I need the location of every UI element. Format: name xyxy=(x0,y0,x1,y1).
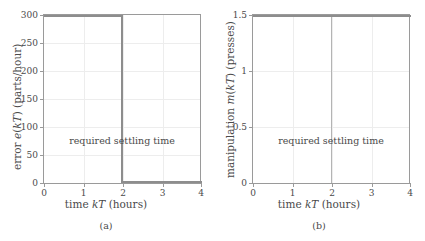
figure: 0 1 2 3 4 0 50 100 150 200 250 300 requi… xyxy=(0,0,425,241)
y-tick-label: 300 xyxy=(21,10,38,20)
x-axis-label-a: time kT (hours) xyxy=(0,198,212,210)
plot-area-a: 0 1 2 3 4 0 50 100 150 200 250 300 requi… xyxy=(43,14,201,184)
x-tick xyxy=(410,183,411,187)
y-axis-label-a: error e(kT) (parts/hour) xyxy=(11,44,23,170)
plot-area-b: 0 1 2 3 4 0 0.5 1 1.5 required settling … xyxy=(252,14,410,184)
subplot-caption-b: (b) xyxy=(213,220,425,231)
x-tick-label: 2 xyxy=(329,188,335,198)
subplot-caption-a: (a) xyxy=(0,220,212,231)
x-tick xyxy=(84,183,85,187)
x-tick-label: 1 xyxy=(290,188,296,198)
x-axis-label-b: time kT (hours) xyxy=(213,198,425,210)
y-tick-label: 50 xyxy=(27,150,38,160)
x-tick-label: 4 xyxy=(407,188,413,198)
y-tick-label: 1 xyxy=(241,66,247,76)
y-tick xyxy=(249,71,253,72)
y-tick-label: 1.5 xyxy=(233,10,247,20)
x-tick-label: 2 xyxy=(120,188,126,198)
y-axis-label-italic-kt: kT xyxy=(11,115,23,128)
settling-time-marker-b xyxy=(331,15,332,183)
y-axis-label-mid: ( xyxy=(224,90,236,94)
plot-inner-b: 0 1 2 3 4 0 0.5 1 1.5 required settling … xyxy=(253,15,409,183)
annotation-required-settling-time-a: required settling time xyxy=(69,135,175,146)
x-axis-label-pre: time xyxy=(278,198,305,210)
annotation-required-settling-time-b: required settling time xyxy=(278,135,384,146)
data-segment-high-a xyxy=(44,15,122,17)
y-axis-label-italic-m: m xyxy=(224,95,236,105)
x-tick-label: 3 xyxy=(369,188,375,198)
x-axis-label-post: (hours) xyxy=(105,198,147,210)
x-tick-label: 0 xyxy=(41,188,47,198)
x-tick xyxy=(332,183,333,187)
x-axis-label-italic: kT xyxy=(92,198,105,210)
y-tick xyxy=(249,15,253,16)
y-axis-label-italic-e: e xyxy=(11,133,23,139)
gridline-vertical xyxy=(372,15,373,183)
data-segment-low-a xyxy=(121,181,202,183)
x-tick xyxy=(123,183,124,187)
y-axis-label-pre: manipulation xyxy=(224,105,236,178)
y-tick xyxy=(40,127,44,128)
x-axis-label-italic: kT xyxy=(305,198,318,210)
subplot-a: 0 1 2 3 4 0 50 100 150 200 250 300 requi… xyxy=(0,0,212,241)
gridline-vertical xyxy=(293,15,294,183)
y-tick xyxy=(40,155,44,156)
x-tick xyxy=(163,183,164,187)
subplot-b: 0 1 2 3 4 0 0.5 1 1.5 required settling … xyxy=(213,0,425,241)
y-tick-label: 250 xyxy=(21,38,38,48)
y-tick-label: 150 xyxy=(21,94,38,104)
x-tick xyxy=(44,183,45,187)
y-tick xyxy=(40,99,44,100)
data-segment-step-a xyxy=(121,15,123,183)
y-axis-label-post: ) (presses) xyxy=(224,21,236,77)
x-tick xyxy=(293,183,294,187)
x-axis-label-pre: time xyxy=(65,198,92,210)
x-tick-label: 1 xyxy=(81,188,87,198)
y-axis-label-b: manipulation m(kT) (presses) xyxy=(224,21,236,178)
y-tick-label: 200 xyxy=(21,66,38,76)
data-segment-constant-b xyxy=(253,15,411,17)
y-tick-label: 0 xyxy=(241,178,247,188)
x-axis-label-post: (hours) xyxy=(318,198,360,210)
y-tick xyxy=(249,127,253,128)
gridline-vertical xyxy=(332,15,333,183)
x-tick-label: 0 xyxy=(250,188,256,198)
x-tick xyxy=(201,183,202,187)
y-tick-label: 0 xyxy=(32,178,38,188)
plot-inner-a: 0 1 2 3 4 0 50 100 150 200 250 300 requi… xyxy=(44,15,200,183)
x-tick-label: 4 xyxy=(198,188,204,198)
y-tick xyxy=(40,71,44,72)
y-axis-label-italic-kt: kT xyxy=(224,77,236,90)
y-tick xyxy=(249,183,253,184)
y-tick xyxy=(40,15,44,16)
y-tick xyxy=(40,183,44,184)
x-tick xyxy=(372,183,373,187)
y-axis-label-mid: ( xyxy=(11,129,23,133)
x-tick-label: 3 xyxy=(160,188,166,198)
y-axis-label-pre: error xyxy=(11,139,23,170)
y-tick xyxy=(40,43,44,44)
y-axis-label-post: ) (parts/hour) xyxy=(11,44,23,116)
x-tick xyxy=(253,183,254,187)
y-tick-label: 100 xyxy=(21,122,38,132)
